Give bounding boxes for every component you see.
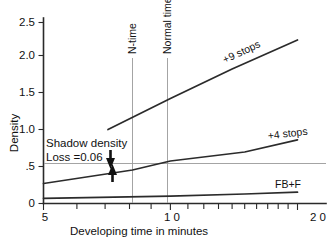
curve-fb-plus-f [44, 192, 298, 198]
y-tick-label-1-5: 1.5 [19, 86, 35, 98]
series-group [44, 40, 298, 198]
vertical-marker-n-time: N-time [126, 23, 138, 203]
normal-time-label: Normal time [161, 0, 173, 54]
y-tick-label-2-0: 2.0 [19, 49, 35, 61]
curve-label-plus-4-stops: +4 stops [267, 125, 308, 142]
y-tick-label-0: 0 [29, 197, 35, 209]
x-tick-label-5: 5 [42, 211, 48, 223]
y-tick-label-0-5: .5 [25, 160, 35, 172]
y-tick-label-1-0: 1.0 [19, 123, 35, 135]
x-tick-label-20: 2 0 [310, 211, 326, 223]
shadow-density-annotation: Shadow density Loss =0.06 [46, 137, 127, 182]
chart-page: 0 .5 1.0 1.5 2.0 2.5 5 [0, 0, 334, 238]
curve-label-fb-plus-f: FB+F [275, 178, 301, 190]
x-axis-title: Developing time in minutes [70, 225, 208, 237]
shadow-density-line1: Shadow density [46, 137, 127, 149]
up-arrow-icon [108, 164, 117, 182]
down-arrow-icon [106, 150, 115, 169]
x-ticks-group [44, 204, 298, 211]
y-tick-labels-group: 0 .5 1.0 1.5 2.0 2.5 [19, 16, 35, 209]
x-tick-label-10: 1 0 [164, 211, 180, 223]
x-tick-labels-group: 5 1 0 2 0 [42, 211, 326, 223]
n-time-label: N-time [126, 23, 138, 54]
shadow-density-line2: Loss =0.06 [46, 151, 103, 163]
y-tick-label-2-5: 2.5 [19, 16, 35, 28]
curve-label-plus-9-stops: +9 stops [221, 37, 262, 65]
density-vs-developing-time-chart: 0 .5 1.0 1.5 2.0 2.5 5 [0, 0, 334, 238]
y-axis-title: Density [8, 114, 20, 153]
